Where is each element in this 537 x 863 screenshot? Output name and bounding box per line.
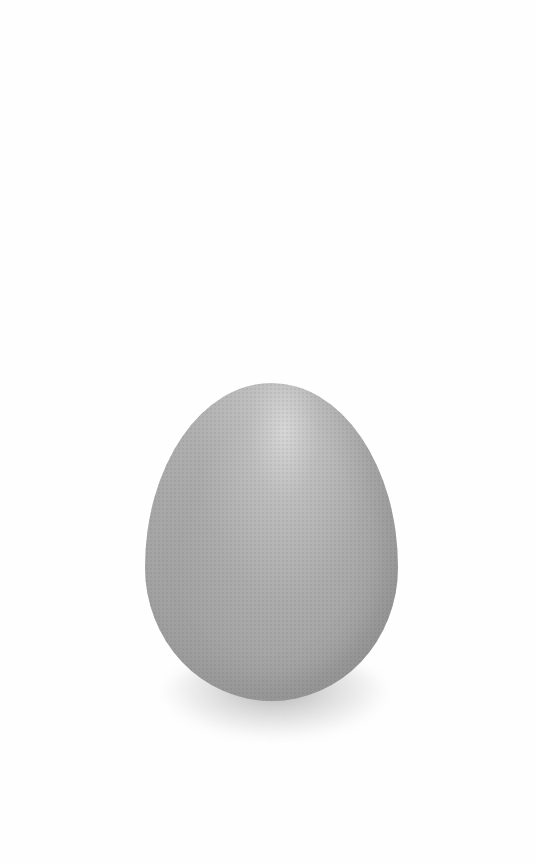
egg <box>145 383 398 701</box>
photo-scene: A single speckled egg standing upright o… <box>0 0 537 863</box>
